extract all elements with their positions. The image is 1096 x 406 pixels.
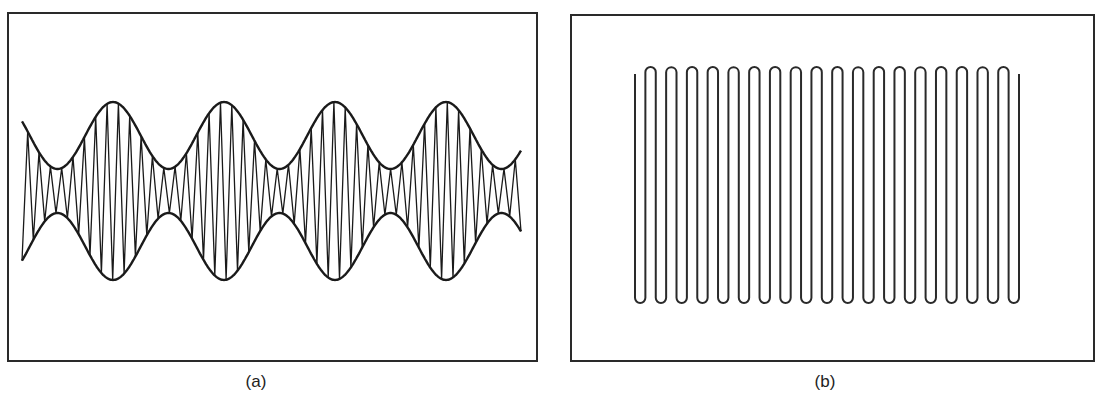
figure-drawing xyxy=(0,0,1096,406)
caption-b: (b) xyxy=(795,372,855,392)
serpentine-pattern xyxy=(635,67,1019,303)
modulated-waveform xyxy=(22,102,521,280)
caption-a: (a) xyxy=(226,372,286,392)
